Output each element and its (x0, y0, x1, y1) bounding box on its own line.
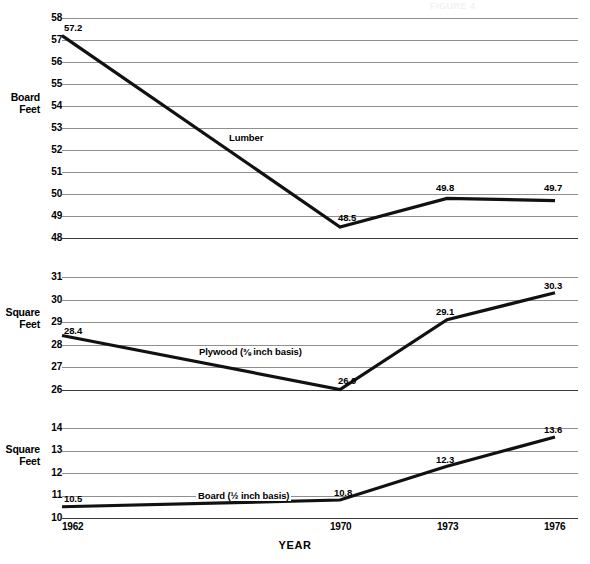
chart-panel-lumber: Board Feet 58 57 56 55 54 53 52 51 50 49… (0, 0, 590, 250)
y-tick-label: 10 (22, 513, 62, 523)
y-axis-title-panel3-line2: Feet (0, 456, 40, 468)
x-tick-label-1973: 1973 (437, 521, 458, 532)
data-point-label: 48.5 (338, 213, 356, 223)
x-axis-title: YEAR (0, 539, 590, 551)
x-tick-label-1962: 1962 (62, 521, 83, 532)
y-tick-label: 54 (22, 101, 62, 111)
y-tick-label: 13 (22, 445, 62, 455)
y-tick-label: 29 (22, 317, 62, 327)
y-tick-label: 58 (22, 13, 62, 23)
figure-multi-panel-line-chart: FIGURE 4 Board Feet 58 57 56 55 54 53 52… (0, 0, 590, 564)
y-tick-label: 48 (22, 233, 62, 243)
y-tick-label: 56 (22, 57, 62, 67)
series-label-plywood: Plywood (⅜ inch basis) (197, 347, 304, 357)
y-tick-label: 28 (22, 340, 62, 350)
data-point-label: 26.0 (338, 376, 356, 386)
data-point-label: 13.6 (544, 425, 562, 435)
plot-area-panel3 (62, 428, 578, 518)
data-point-label: 29.1 (436, 307, 454, 317)
series-label-lumber: Lumber (227, 133, 265, 143)
plot-area-panel2 (62, 277, 578, 390)
series-label-board: Board (½ inch basis) (196, 491, 291, 501)
y-tick-label: 50 (22, 189, 62, 199)
y-tick-label: 57 (22, 35, 62, 45)
x-tick-label-1970: 1970 (330, 521, 351, 532)
data-point-label: 12.3 (436, 455, 454, 465)
data-point-label: 10.5 (64, 494, 82, 504)
series-line-plywood (62, 277, 578, 390)
y-tick-label: 51 (22, 167, 62, 177)
data-point-label: 10.8 (334, 488, 352, 498)
series-line-board (62, 428, 578, 518)
y-tick-label: 30 (22, 295, 62, 305)
y-tick-label: 26 (22, 385, 62, 395)
data-point-label: 57.2 (64, 23, 82, 33)
y-tick-label: 53 (22, 123, 62, 133)
y-tick-label: 31 (22, 272, 62, 282)
series-line-lumber (62, 18, 578, 238)
data-point-label: 49.7 (544, 183, 562, 193)
y-tick-label: 27 (22, 362, 62, 372)
gridline-baseline (62, 238, 578, 239)
y-tick-label: 12 (22, 468, 62, 478)
data-point-label: 28.4 (64, 326, 82, 336)
y-tick-label: 14 (22, 423, 62, 433)
plot-area-panel1 (62, 18, 578, 238)
y-tick-label: 52 (22, 145, 62, 155)
data-point-label: 49.8 (436, 183, 454, 193)
gridline-baseline (62, 518, 578, 519)
y-tick-label: 49 (22, 211, 62, 221)
data-point-label: 30.3 (544, 281, 562, 291)
y-tick-label: 55 (22, 79, 62, 89)
y-tick-label: 11 (22, 490, 62, 500)
x-tick-label-1976: 1976 (544, 521, 565, 532)
